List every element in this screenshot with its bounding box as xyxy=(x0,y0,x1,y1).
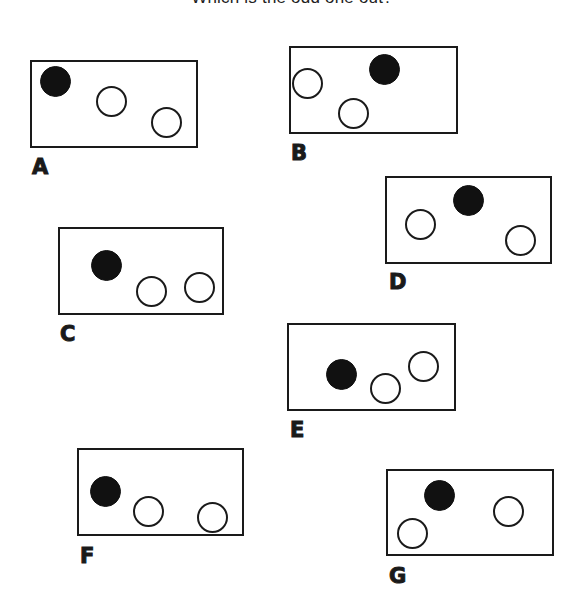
empty-circle-icon xyxy=(338,98,369,129)
filled-circle-icon xyxy=(453,185,484,216)
filled-circle-icon xyxy=(40,66,71,97)
empty-circle-icon xyxy=(408,351,439,382)
empty-circle-icon xyxy=(197,502,228,533)
filled-circle-icon xyxy=(326,359,357,390)
filled-circle-icon xyxy=(424,480,455,511)
option-label-b[interactable]: B xyxy=(291,143,307,164)
empty-circle-icon xyxy=(133,496,164,527)
option-label-a[interactable]: A xyxy=(32,157,48,178)
empty-circle-icon xyxy=(370,373,401,404)
option-label-f[interactable]: F xyxy=(80,546,94,567)
empty-circle-icon xyxy=(505,225,536,256)
option-label-c[interactable]: C xyxy=(60,324,75,345)
filled-circle-icon xyxy=(369,54,400,85)
empty-circle-icon xyxy=(96,86,127,117)
empty-circle-icon xyxy=(184,272,215,303)
puzzle-title: Which is the odd one out? xyxy=(0,0,584,8)
filled-circle-icon xyxy=(90,476,121,507)
empty-circle-icon xyxy=(405,209,436,240)
option-label-e[interactable]: E xyxy=(290,420,304,441)
filled-circle-icon xyxy=(91,250,122,281)
empty-circle-icon xyxy=(493,496,524,527)
empty-circle-icon xyxy=(292,68,323,99)
option-label-g[interactable]: G xyxy=(389,566,406,587)
empty-circle-icon xyxy=(151,107,182,138)
option-label-d[interactable]: D xyxy=(389,272,406,293)
empty-circle-icon xyxy=(397,518,428,549)
empty-circle-icon xyxy=(136,276,167,307)
